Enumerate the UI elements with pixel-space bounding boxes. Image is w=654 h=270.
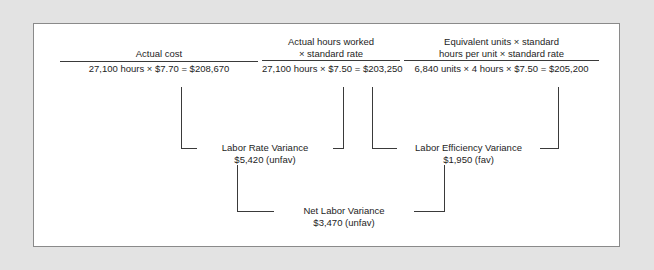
net-labor-variance-node: Net Labor Variance $3,470 (unfav) bbox=[274, 205, 414, 228]
connector-rate-variance-left bbox=[181, 87, 182, 149]
column-standard-hours-at-standard-rate: Equivalent units × standard hours per un… bbox=[404, 36, 599, 74]
column-formula: 27,100 hours × $7.50 = $203,250 bbox=[262, 60, 400, 74]
labor-efficiency-variance-label: Labor Efficiency Variance bbox=[400, 142, 537, 154]
diagram-card: Actual cost 27,100 hours × $7.70 = $208,… bbox=[33, 23, 620, 247]
connector-net-variance-right bbox=[444, 165, 445, 212]
column-heading-line2: hours per unit × standard rate bbox=[404, 48, 599, 60]
net-labor-variance-amount: $3,470 (unfav) bbox=[277, 217, 411, 229]
column-formula: 6,840 units × 4 hours × $7.50 = $205,200 bbox=[404, 60, 599, 74]
connector-rate-variance-right bbox=[343, 87, 344, 149]
column-heading-line1: Equivalent units × standard bbox=[404, 36, 599, 48]
labor-efficiency-variance-node: Labor Efficiency Variance $1,950 (fav) bbox=[397, 142, 540, 165]
connector-efficiency-variance-left bbox=[372, 87, 373, 149]
column-actual-cost: Actual cost 27,100 hours × $7.70 = $208,… bbox=[60, 48, 258, 75]
column-heading-line2: × standard rate bbox=[262, 48, 400, 60]
connector-net-variance-left bbox=[237, 165, 238, 212]
connector-efficiency-variance-right bbox=[558, 87, 559, 149]
labor-efficiency-variance-amount: $1,950 (fav) bbox=[400, 154, 537, 166]
column-heading-line1: Actual hours worked bbox=[262, 36, 400, 48]
column-heading-line1: Actual cost bbox=[60, 48, 258, 60]
column-actual-hours-at-standard-rate: Actual hours worked × standard rate 27,1… bbox=[262, 36, 400, 74]
labor-rate-variance-node: Labor Rate Variance $5,420 (unfav) bbox=[197, 142, 333, 165]
labor-rate-variance-label: Labor Rate Variance bbox=[200, 142, 330, 154]
labor-rate-variance-amount: $5,420 (unfav) bbox=[200, 154, 330, 166]
column-formula: 27,100 hours × $7.70 = $208,670 bbox=[60, 61, 258, 75]
net-labor-variance-label: Net Labor Variance bbox=[277, 205, 411, 217]
